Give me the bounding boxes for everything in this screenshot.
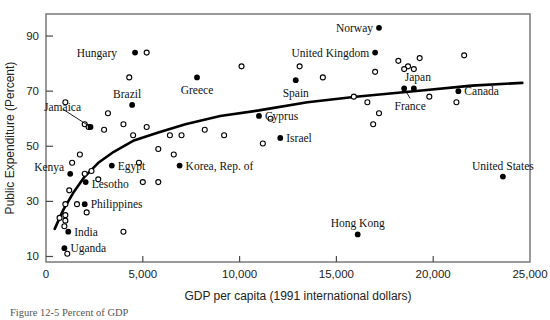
data-point-open [127,75,132,80]
data-point-open [121,229,126,234]
data-point-open [70,160,75,165]
data-point-open [84,210,89,215]
y-tick-label: 70 [26,85,39,97]
point-label: India [74,226,98,238]
point-label: Kenya [34,161,64,174]
scatter-plot: 05,00010,00015,00020,00025,0001030507090… [0,0,550,320]
data-point-filled [376,25,382,31]
data-point-open [82,171,87,176]
point-label: Spain [283,87,309,100]
data-point-open [74,202,79,207]
data-point-open [62,224,67,229]
data-point-open [239,64,244,69]
data-point-open [131,133,136,138]
point-label: Lesotho [92,178,129,190]
data-point-open [417,56,422,61]
data-point-open [63,218,68,223]
data-point-open [156,147,161,152]
point-label: Norway [336,22,373,35]
figure-container: 05,00010,00015,00020,00025,0001030507090… [0,0,550,320]
data-point-filled [372,50,378,56]
point-label: Hungary [77,47,117,60]
data-point-open [156,180,161,185]
data-point-open [179,133,184,138]
data-point-filled [293,77,299,83]
data-point-open [454,100,459,105]
point-label: Brazil [113,88,141,100]
point-label: Korea, Rep. of [186,160,254,173]
y-tick-label: 30 [26,195,39,207]
data-point-open [202,127,207,132]
data-point-open [373,69,378,74]
data-point-open [171,152,176,157]
data-point-open [102,127,107,132]
data-point-open [63,202,68,207]
x-tick-label: 0 [43,268,49,280]
point-label: Greece [181,84,214,96]
data-point-open [140,180,145,185]
data-point-filled [411,86,417,92]
data-point-open [144,50,149,55]
point-label: Uganda [70,242,106,255]
data-point-filled [88,124,94,130]
x-tick-label: 15,000 [319,268,354,280]
point-label: France [395,100,426,112]
data-point-filled [67,171,73,177]
point-label: Philippines [91,198,143,211]
x-tick-label: 25,000 [512,268,547,280]
data-point-filled [401,86,407,92]
data-point-filled [277,135,283,141]
data-point-open [396,58,401,63]
point-label: Japan [405,71,431,84]
y-tick-label: 10 [26,250,39,262]
data-point-filled [132,50,138,56]
data-point-filled [65,229,71,235]
data-point-open [144,124,149,129]
figure-caption: Figure 12-5 Percent of GDP [10,307,129,318]
data-point-open [320,75,325,80]
data-point-open [351,94,356,99]
data-point-filled [194,74,200,80]
data-point-open [376,111,381,116]
x-axis-title: GDP per capita (1991 international dolla… [184,289,411,303]
point-label: Cyprus [265,110,299,123]
data-point-open [222,133,227,138]
y-axis-title: Public Expenditure (Percent) [3,62,17,215]
data-point-open [77,152,82,157]
point-label: United States [472,160,534,172]
data-point-open [89,169,94,174]
data-point-filled [82,201,88,207]
data-point-open [260,141,265,146]
point-label: Jamaica [44,101,81,113]
data-point-filled [455,88,461,94]
data-point-open [63,213,68,218]
data-point-filled [256,113,262,119]
data-point-open [427,94,432,99]
data-point-filled [61,245,67,251]
data-point-filled [355,232,361,238]
data-point-open [371,122,376,127]
x-tick-label: 10,000 [222,268,257,280]
data-point-open [57,215,62,220]
data-point-filled [129,102,135,108]
data-point-open [297,64,302,69]
point-label: Hong Kong [331,217,385,230]
data-point-filled [177,163,183,169]
data-point-open [65,251,70,256]
data-point-open [105,111,110,116]
data-point-filled [500,174,506,180]
x-tick-label: 5,000 [128,268,157,280]
x-tick-label: 20,000 [416,268,451,280]
data-point-open [167,133,172,138]
data-point-filled [109,163,115,169]
y-tick-label: 90 [26,30,39,42]
point-label: United Kingdom [291,47,369,60]
point-label: Canada [464,85,498,97]
point-label: Egypt [118,160,146,173]
data-point-open [365,100,370,105]
data-point-open [121,122,126,127]
point-label: Israel [286,132,312,144]
data-point-open [67,188,72,193]
data-point-open [462,53,467,58]
data-point-filled [83,179,89,185]
